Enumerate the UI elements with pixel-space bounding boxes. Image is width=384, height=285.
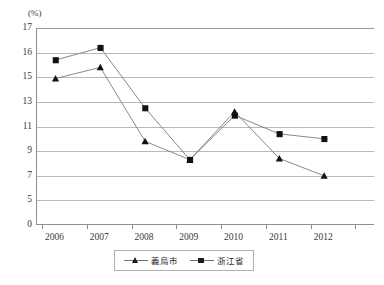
data-point-triangle [97, 64, 104, 71]
legend-label-yiwu-city: 義烏市 [151, 254, 178, 266]
y-tick-label-0: 0 [27, 220, 32, 230]
plot-area [36, 28, 374, 225]
x-tick-label-2006: 2006 [45, 232, 64, 242]
y-tick-label-7: 7 [27, 171, 32, 181]
x-tick-label-2007: 2007 [90, 232, 109, 242]
data-point-square [277, 131, 283, 137]
x-tick-mark [176, 225, 177, 229]
x-tick-mark [42, 225, 43, 229]
y-axis-unit-label: (%) [28, 8, 42, 18]
x-tick-label-2012: 2012 [314, 232, 333, 242]
x-tick-mark [311, 225, 312, 229]
data-point-square [187, 157, 193, 163]
x-tick-mark [266, 225, 267, 229]
series-layer [37, 28, 375, 225]
y-tick-label-15: 15 [23, 73, 33, 83]
x-tick-label-2009: 2009 [179, 232, 198, 242]
data-point-triangle [141, 138, 148, 145]
x-tick-mark [87, 225, 88, 229]
series-line-2 [56, 48, 325, 160]
x-axis-tick-labels: 2006200720082009201020112012 [36, 225, 374, 249]
data-point-square [321, 136, 327, 142]
data-point-square [98, 45, 104, 51]
square-marker-icon [190, 256, 214, 265]
x-tick-label-2008: 2008 [135, 232, 154, 242]
data-point-square [232, 113, 238, 119]
y-tick-label-13: 13 [23, 97, 33, 107]
legend-item-zhejiang-province: 浙江省 [190, 254, 244, 266]
legend-item-yiwu-city: 義烏市 [124, 254, 178, 266]
y-tick-label-9: 9 [27, 146, 32, 156]
legend: 義烏市 浙江省 [114, 250, 254, 271]
line-chart: (%) 17161513119750 200620072008200920102… [0, 0, 384, 285]
y-tick-label-5: 5 [27, 196, 32, 206]
y-tick-label-11: 11 [23, 122, 32, 132]
y-tick-label-17: 17 [23, 23, 33, 33]
legend-label-zhejiang-province: 浙江省 [217, 254, 244, 266]
data-point-square [142, 105, 148, 111]
x-tick-mark [221, 225, 222, 229]
x-tick-label-2010: 2010 [224, 232, 243, 242]
triangle-marker-icon [124, 256, 148, 265]
y-axis-tick-labels: 17161513119750 [0, 28, 36, 225]
x-tick-mark [355, 225, 356, 229]
y-tick-label-16: 16 [23, 48, 33, 58]
data-point-square [53, 57, 59, 63]
x-tick-mark [132, 225, 133, 229]
x-tick-label-2011: 2011 [269, 232, 288, 242]
data-point-triangle [321, 172, 328, 179]
